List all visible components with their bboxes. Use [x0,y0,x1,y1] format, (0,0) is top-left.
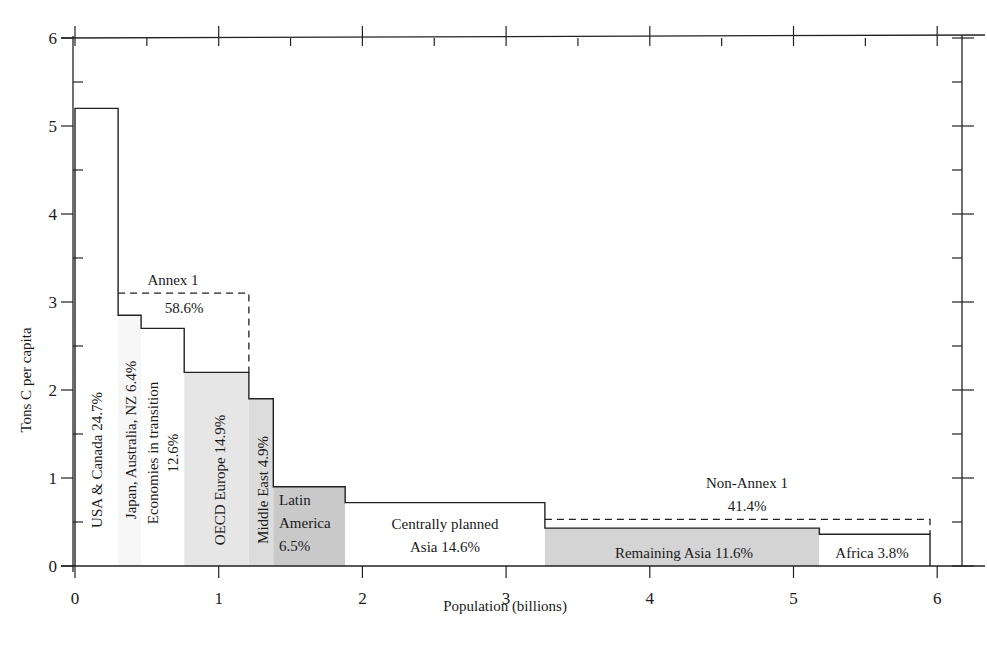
nonannex1-share: 41.4% [728,498,767,514]
y-tick-label: 5 [49,117,58,136]
y-tick-label: 2 [49,381,58,400]
y-tick-label: 0 [49,557,58,576]
top-axis-line [61,35,985,38]
x-axis-title: Population (billions) [443,598,567,615]
x-tick-label: 1 [214,589,223,608]
region-label: Africa 3.8% [835,545,908,561]
annex1-share: 58.6% [165,300,204,316]
region-fills [75,108,930,566]
region-label: Middle East 4.9% [255,436,271,544]
x-tick-label: 2 [358,589,367,608]
y-axis-title: Tons C per capita [18,327,34,433]
step-chart: 01234560123456 USA & Canada 24.7%Japan, … [0,0,987,656]
y-tick-label: 6 [49,29,58,48]
y-tick-label: 3 [49,293,58,312]
region-label: USA & Canada 24.7% [89,392,105,528]
y-tick-label: 1 [49,469,58,488]
nonannex1-label: Non-Annex 1 [706,475,788,491]
x-tick-label: 4 [646,589,655,608]
region-label: OECD Europe 14.9% [212,415,228,545]
y-tick-label: 4 [49,205,58,224]
x-tick-label: 5 [789,589,798,608]
region-label: Remaining Asia 11.6% [615,545,753,561]
region-label: Japan, Australia, NZ 6.4% [123,361,139,519]
x-tick-label: 0 [71,589,80,608]
annex1-label: Annex 1 [147,272,198,288]
region-bar-6 [345,503,545,566]
x-tick-label: 6 [933,589,942,608]
